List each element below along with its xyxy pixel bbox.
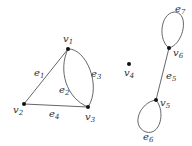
edge-e4 bbox=[24, 104, 88, 107]
edge-label-e1: e1 bbox=[34, 67, 44, 80]
edge-e2 bbox=[64, 49, 88, 107]
vertex-label-v1: v1 bbox=[63, 33, 73, 46]
vertex-v5 bbox=[154, 98, 158, 102]
vertex-label-v2: v2 bbox=[13, 104, 24, 117]
vertex-label-v4: v4 bbox=[124, 67, 134, 80]
edge-label-e7: e7 bbox=[175, 3, 186, 16]
vertex-v6 bbox=[167, 46, 171, 50]
edge-label-e2: e2 bbox=[59, 84, 70, 97]
vertex-label-v6: v6 bbox=[173, 47, 184, 60]
edge-e6-loop bbox=[138, 100, 161, 132]
edge-label-e4: e4 bbox=[49, 108, 59, 121]
vertex-label-v5: v5 bbox=[160, 97, 171, 110]
vertex-v2 bbox=[22, 102, 26, 106]
edge-label-e6: e6 bbox=[143, 131, 154, 144]
edge-e3 bbox=[68, 49, 93, 107]
graph-diagram: v1 v2 v3 v4 v5 v6 e1 e2 e3 e4 e5 e6 e7 bbox=[0, 0, 192, 146]
vertex-v1 bbox=[66, 47, 70, 51]
edge-e1 bbox=[24, 49, 68, 104]
vertex-v3 bbox=[86, 105, 90, 109]
vertex-v4 bbox=[127, 62, 131, 66]
edge-e7-loop bbox=[162, 12, 184, 48]
vertex-label-v3: v3 bbox=[85, 111, 96, 124]
edge-label-e5: e5 bbox=[166, 70, 177, 83]
